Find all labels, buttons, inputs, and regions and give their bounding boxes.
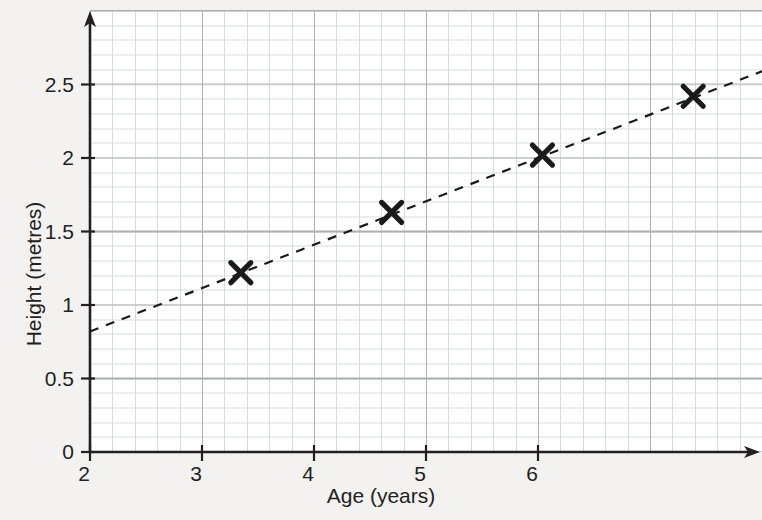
x-tick-label-2: 2 <box>78 462 90 486</box>
x-tick-label-6: 6 <box>526 462 538 486</box>
y-tick-marks <box>81 85 95 453</box>
y-tick-label-2-5: 2.5 <box>20 73 74 97</box>
x-tick-label-5: 5 <box>414 462 426 486</box>
y-tick-label-0: 0 <box>20 440 74 464</box>
scatter-chart: 2.5 2 1.5 1 0.5 0 2 3 4 5 6 Age (years) … <box>0 0 762 520</box>
line-of-best-fit <box>90 71 762 331</box>
data-point-marker <box>532 145 552 165</box>
chart-axes-and-data <box>0 0 762 520</box>
x-tick-label-4: 4 <box>302 462 314 486</box>
x-tick-label-3: 3 <box>190 462 202 486</box>
y-axis-title: Height (metres) <box>22 144 46 404</box>
data-points <box>231 86 703 282</box>
data-point-marker <box>231 263 251 283</box>
x-axis-title: Age (years) <box>0 484 762 508</box>
